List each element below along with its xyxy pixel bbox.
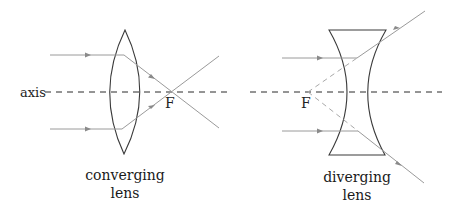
virtual-ray-lower xyxy=(308,92,358,131)
arrow-icon xyxy=(85,53,91,58)
diverging-lens-icon xyxy=(329,30,386,155)
arrow-icon xyxy=(85,127,91,132)
diverging-lens-panel: F diverging lens xyxy=(250,11,442,203)
caption-line2: lens xyxy=(111,185,140,201)
caption-line1: diverging xyxy=(323,169,391,185)
axis-label: axis xyxy=(20,85,46,100)
arrow-icon xyxy=(317,56,323,61)
focal-point-label: F xyxy=(301,95,311,111)
lens-diagram: axis F converging lens xyxy=(0,0,454,211)
arrow-icon xyxy=(317,129,323,134)
caption-line1: converging xyxy=(85,167,165,183)
arrow-icon xyxy=(395,161,402,166)
focal-point-label: F xyxy=(165,95,175,111)
refracted-ray-upper xyxy=(357,11,425,58)
virtual-ray-upper xyxy=(308,58,357,92)
caption-line2: lens xyxy=(343,187,372,203)
converging-lens-panel: axis F converging lens xyxy=(20,30,232,201)
